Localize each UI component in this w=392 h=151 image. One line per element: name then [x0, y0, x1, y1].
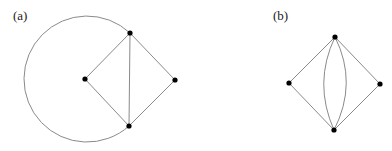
panel-a-label: (a) [13, 8, 27, 23]
vertex-a-bottom [126, 123, 131, 128]
vertex-b-right [377, 81, 382, 86]
vertex-b-top [332, 34, 337, 39]
vertex-a-left [82, 76, 87, 81]
edge-b-top-left [289, 37, 335, 83]
panel-a: (a) [13, 8, 178, 142]
panel-b-label: (b) [273, 8, 288, 23]
vertex-a-right [172, 77, 177, 82]
edge-b-top-right [335, 37, 380, 84]
vertex-a-top [127, 30, 132, 35]
graph-figure: (a) (b) [0, 0, 392, 151]
edge-b-curve-left [324, 37, 335, 130]
edge-b-curve-right [334, 37, 346, 130]
edge-a-left-bottom [85, 79, 129, 126]
edge-b-right-bottom [334, 84, 380, 130]
edge-b-left-bottom [289, 83, 334, 130]
edge-a-outer-arc [24, 16, 130, 142]
edge-a-top-left [85, 33, 130, 79]
edge-a-top-bottom [129, 33, 130, 126]
vertex-b-left [286, 80, 291, 85]
edge-a-right-bottom [129, 80, 175, 126]
panel-b: (b) [273, 8, 383, 133]
edge-a-top-right [130, 33, 175, 80]
vertex-b-bottom [331, 127, 336, 132]
